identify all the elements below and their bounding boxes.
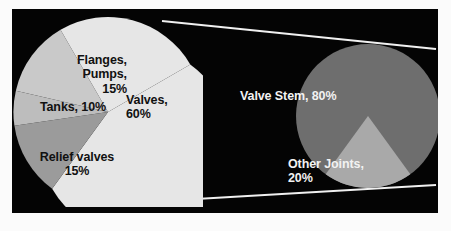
label-other-joints: Other Joints, 20% — [288, 157, 392, 186]
label-tanks: Tanks, 10% — [18, 100, 128, 114]
label-relief-valves: Relief valves 15% — [18, 150, 136, 179]
label-valves: Valves, 60% — [126, 93, 206, 122]
screenshot-root: Flanges, Pumps, 15% Tanks, 10% Relief va… — [0, 0, 451, 231]
label-valve-stem: Valve Stem, 80% — [240, 89, 402, 103]
slide-panel: Flanges, Pumps, 15% Tanks, 10% Relief va… — [12, 9, 438, 213]
label-flanges-pumps: Flanges, Pumps, 15% — [24, 53, 127, 96]
